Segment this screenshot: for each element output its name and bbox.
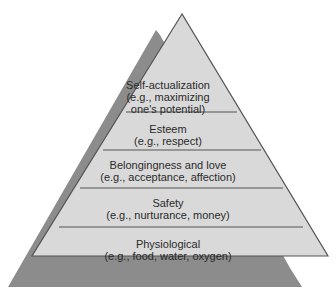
level-example: (e.g., acceptance, affection) [0,171,336,183]
level-esteem: Esteem (e.g., respect) [0,123,336,147]
level-example: (e.g., respect) [0,135,336,147]
level-title: Safety [0,197,336,209]
level-physiological: Physiological (e.g., food, water, oxygen… [0,238,336,262]
level-belongingness: Belongingness and love (e.g., acceptance… [0,159,336,183]
level-example-cont: one's potential) [0,103,336,115]
level-example: (e.g., maximizing [0,91,336,103]
level-example: (e.g., food, water, oxygen) [0,250,336,262]
level-self-actualization: Self-actualization (e.g., maximizing one… [0,79,336,115]
level-title: Self-actualization [0,79,336,91]
level-title: Physiological [0,238,336,250]
level-example: (e.g., nurturance, money) [0,209,336,221]
level-title: Belongingness and love [0,159,336,171]
pyramid-diagram: Self-actualization (e.g., maximizing one… [0,0,336,296]
level-safety: Safety (e.g., nurturance, money) [0,197,336,221]
level-title: Esteem [0,123,336,135]
